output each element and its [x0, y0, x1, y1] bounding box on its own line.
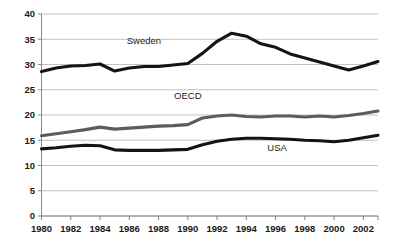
series-label-group: SwedenOECDUSA [127, 35, 288, 153]
x-tick-label-1986: 1986 [119, 223, 140, 234]
x-tick-label-1980: 1980 [31, 223, 52, 234]
line-chart-container: 0510152025303540 19801982198419861988199… [0, 0, 395, 249]
series-line-usa [42, 135, 379, 150]
x-tick-label-1994: 1994 [236, 223, 258, 234]
x-tick-label-1988: 1988 [148, 223, 169, 234]
x-tick-label-1992: 1992 [206, 223, 227, 234]
series-label-oecd: OECD [174, 90, 202, 101]
y-tick-label-25: 25 [24, 84, 35, 95]
x-tick-label-1996: 1996 [265, 223, 286, 234]
series-label-sweden: Sweden [127, 35, 161, 46]
x-tick-label-1990: 1990 [177, 223, 198, 234]
y-tick-label-5: 5 [30, 185, 36, 196]
x-tick-label-1982: 1982 [60, 223, 81, 234]
y-tick-label-35: 35 [24, 34, 35, 45]
x-tick-label-2002: 2002 [353, 223, 374, 234]
y-tick-label-15: 15 [24, 135, 35, 146]
x-tick-label-1984: 1984 [89, 223, 111, 234]
x-tick-label-2000: 2000 [324, 223, 345, 234]
chart-canvas: 0510152025303540 19801982198419861988199… [0, 0, 395, 249]
y-tick-label-10: 10 [24, 160, 35, 171]
series-label-usa: USA [267, 142, 287, 153]
y-tick-label-40: 40 [24, 8, 35, 19]
x-tick-label-1998: 1998 [294, 223, 315, 234]
y-axis-tick-labels: 0510152025303540 [24, 8, 35, 221]
data-series-group [42, 33, 379, 150]
gridlines-group [42, 14, 379, 216]
y-tick-label-30: 30 [24, 59, 35, 70]
y-tick-label-20: 20 [24, 109, 35, 120]
y-tick-label-0: 0 [30, 210, 35, 221]
x-axis-tick-labels: 1980198219841986198819901992199419961998… [31, 223, 374, 234]
